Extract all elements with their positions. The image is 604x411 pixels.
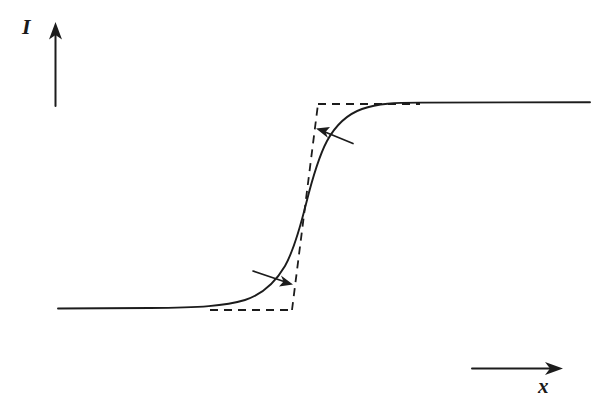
y-axis-label: I — [22, 16, 31, 38]
x-axis-label: x — [538, 376, 549, 397]
figure-root: I x — [0, 0, 604, 411]
x-axis-arrow — [472, 362, 563, 375]
lower-deviation-arrow-shaft — [253, 271, 284, 282]
lower-deviation-arrow — [253, 271, 293, 287]
ideal-step-dashed — [210, 104, 420, 310]
figure-canvas — [0, 0, 604, 411]
y-axis-arrow — [49, 22, 62, 106]
